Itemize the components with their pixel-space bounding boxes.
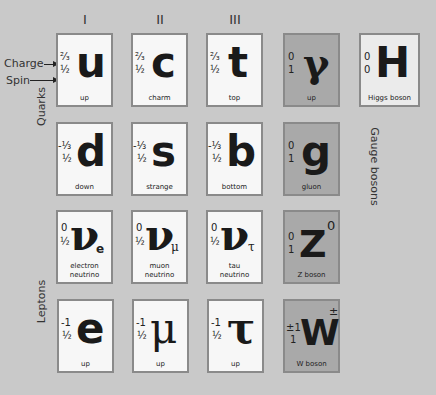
particle-symbol: g: [301, 128, 331, 176]
particle-name-line2: neutrino: [58, 271, 111, 279]
charge-value: 0: [364, 51, 370, 62]
spin-value: 0: [364, 64, 370, 75]
particle-name: top: [208, 94, 261, 102]
particle-subscript: e: [96, 242, 104, 256]
particle-superscript: 0: [327, 218, 335, 233]
particle-card-w-boson: ±1 1 W ± W boson: [283, 299, 340, 373]
spin-value: ½: [60, 236, 70, 247]
charge-value: ²⁄₃: [135, 51, 145, 62]
particle-card-bottom: -⅓ ½ b bottom: [206, 122, 263, 196]
particle-name: up: [59, 360, 112, 368]
particle-symbol: c: [151, 39, 176, 87]
particle-symbol: ν: [220, 212, 249, 260]
spin-value: ½: [60, 64, 70, 75]
particle-name-line1: electron: [58, 262, 111, 270]
spin-value: ½: [212, 330, 222, 341]
spin-value: 1: [288, 153, 294, 164]
particle-subscript: μ: [171, 240, 179, 254]
particle-card-z-boson: 0 1 Z 0 Z boson: [283, 210, 340, 284]
particle-card-down: -⅓ ½ d down: [56, 122, 113, 196]
leptons-label: Leptons: [35, 280, 48, 323]
particle-name: down: [58, 183, 111, 191]
generation-header-1: I: [70, 12, 100, 27]
spin-value: 1: [290, 334, 296, 345]
charge-value: 0: [288, 231, 294, 242]
particle-symbol: ν: [70, 212, 99, 260]
particle-card-photon: 0 1 γ up: [283, 33, 340, 107]
particle-symbol: H: [375, 39, 410, 87]
particle-name: gluon: [285, 183, 338, 191]
particle-name-line2: neutrino: [208, 271, 261, 279]
spin-value: ½: [135, 236, 145, 247]
particle-symbol: e: [76, 305, 105, 353]
particle-name: up: [58, 94, 111, 102]
particle-name: up: [134, 360, 187, 368]
particle-name-line2: neutrino: [133, 271, 186, 279]
particle-symbol: u: [76, 39, 106, 87]
particle-name: Higgs boson: [361, 94, 418, 102]
particle-symbol: s: [151, 128, 176, 176]
particle-name: charm: [133, 94, 186, 102]
particle-symbol: b: [226, 128, 256, 176]
spin-value: ½: [62, 153, 72, 164]
spin-value: ½: [62, 330, 72, 341]
charge-value: -⅓: [208, 140, 221, 151]
spin-arrow-icon: [30, 80, 58, 81]
particle-card-higgs: 0 0 H Higgs boson: [359, 33, 420, 107]
charge-value: 0: [288, 140, 294, 151]
spin-value: ½: [210, 236, 220, 247]
charge-value: ²⁄₃: [60, 51, 70, 62]
particle-name: Z boson: [285, 271, 338, 279]
charge-value: 0: [211, 222, 217, 233]
particle-name: up: [285, 94, 338, 102]
spin-value: ½: [135, 64, 145, 75]
spin-value: ½: [137, 330, 147, 341]
particle-symbol: Z: [299, 220, 327, 268]
particle-card-strange: -⅓ ½ s strange: [131, 122, 188, 196]
particle-symbol: d: [76, 128, 106, 176]
charge-value: -1: [61, 317, 71, 328]
particle-card-muon: -1 ½ μ up: [132, 299, 189, 373]
charge-value: -1: [136, 317, 146, 328]
spin-value: ½: [137, 153, 147, 164]
particle-card-tau: -1 ½ τ up: [207, 299, 264, 373]
particle-name-line1: muon: [133, 262, 186, 270]
charge-value: ±1: [286, 322, 301, 333]
particle-symbol: γ: [303, 39, 329, 87]
particle-card-muon-neutrino: 0 ½ ν μ muon neutrino: [131, 210, 188, 284]
charge-value: -⅓: [133, 140, 146, 151]
charge-value: -⅓: [58, 140, 71, 151]
particle-card-gluon: 0 1 g gluon: [283, 122, 340, 196]
particle-card-electron: -1 ½ e up: [57, 299, 114, 373]
particle-card-top: ²⁄₃ ½ t top: [206, 33, 263, 107]
particle-name: strange: [133, 183, 186, 191]
charge-annotation: Charge: [4, 57, 43, 70]
spin-value: ½: [210, 64, 220, 75]
particle-symbol: μ: [150, 305, 177, 353]
particle-card-up: ²⁄₃ ½ u up: [56, 33, 113, 107]
particle-name-line1: tau: [208, 262, 261, 270]
particle-name: up: [209, 360, 262, 368]
particle-card-electron-neutrino: 0 ½ ν e electron neutrino: [56, 210, 113, 284]
particle-superscript: ±: [329, 305, 338, 318]
charge-value: 0: [288, 51, 294, 62]
generation-header-3: III: [220, 12, 250, 27]
quarks-label: Quarks: [35, 87, 48, 126]
charge-value: 0: [61, 222, 67, 233]
particle-symbol: τ: [227, 305, 255, 353]
particle-card-tau-neutrino: 0 ½ ν τ tau neutrino: [206, 210, 263, 284]
particle-symbol: ν: [145, 212, 174, 260]
particle-name: W boson: [285, 360, 338, 368]
gauge-bosons-label: Gauge bosons: [368, 127, 381, 205]
spin-value: 1: [288, 64, 294, 75]
particle-subscript: τ: [248, 240, 255, 254]
spin-annotation: Spin: [6, 74, 30, 87]
charge-value: 0: [136, 222, 142, 233]
charge-value: ²⁄₃: [210, 51, 220, 62]
particle-symbol: t: [228, 39, 248, 87]
particle-name: bottom: [208, 183, 261, 191]
spin-value: ½: [212, 153, 222, 164]
charge-value: -1: [211, 317, 221, 328]
particle-card-charm: ²⁄₃ ½ c charm: [131, 33, 188, 107]
spin-value: 1: [288, 244, 294, 255]
